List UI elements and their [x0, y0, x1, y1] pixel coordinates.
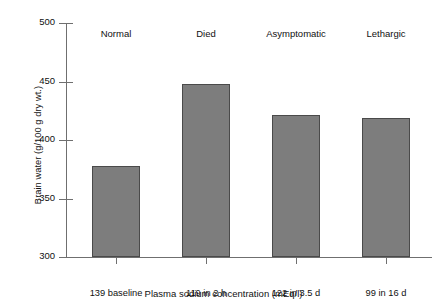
bar-0 — [92, 166, 140, 257]
group-label-asymptomatic: Asymptomatic — [266, 28, 326, 39]
y-tick-400: 400 — [59, 140, 73, 141]
x-tick-0 — [116, 257, 117, 264]
bar-3 — [362, 118, 410, 257]
y-tick-300: 300 — [59, 257, 73, 258]
y-tick-450: 450 — [59, 82, 73, 83]
y-tick-350: 350 — [59, 199, 73, 200]
x-tick-3 — [386, 257, 387, 264]
x-tick-2 — [296, 257, 297, 264]
y-tick-label-450: 450 — [39, 75, 55, 86]
y-tick-label-300: 300 — [39, 250, 55, 261]
x-axis-line — [66, 257, 432, 258]
y-tick-500: 500 — [59, 23, 73, 24]
x-axis-title: Plasma sodium concentration (mEq/l) — [0, 288, 447, 299]
x-tick-1 — [206, 257, 207, 264]
bar-2 — [272, 115, 320, 257]
group-label-normal: Normal — [101, 28, 132, 39]
bar-1 — [182, 84, 230, 257]
y-tick-label-400: 400 — [39, 133, 55, 144]
y-tick-label-500: 500 — [39, 16, 55, 27]
group-label-lethargic: Lethargic — [366, 28, 405, 39]
bar-chart-figure: Brain water (g/100 g dry wt.) 300 350 40… — [0, 0, 447, 308]
y-tick-label-350: 350 — [39, 192, 55, 203]
plot-area: 300 350 400 450 500 Normal Died Asymptom… — [66, 23, 432, 258]
group-label-died: Died — [196, 28, 216, 39]
